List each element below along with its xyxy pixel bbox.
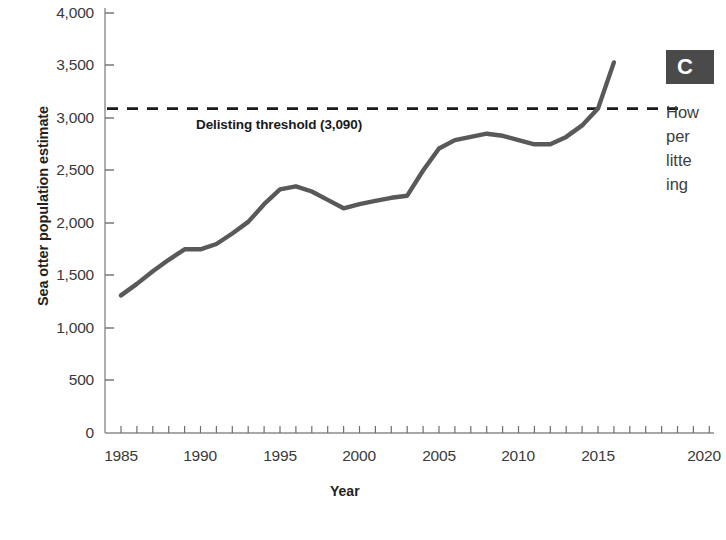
population-data-line (121, 62, 614, 295)
section-badge: C (666, 50, 714, 84)
delisting-threshold-label: Delisting threshold (3,090) (196, 117, 362, 132)
y-tick-label: 4,000 (8, 4, 94, 22)
y-tick-label: 0 (8, 424, 94, 442)
sidebar-text-line: per (666, 124, 714, 148)
x-tick-label: 2010 (483, 447, 553, 465)
sidebar-text-line: ing (666, 172, 714, 196)
x-axis-title: Year (330, 483, 360, 499)
x-tick-label: 1995 (245, 447, 315, 465)
y-tick-label: 500 (8, 371, 94, 389)
y-tick-label: 1,000 (8, 319, 94, 337)
x-tick-label: 1985 (86, 447, 156, 465)
y-tick-label: 2,000 (8, 214, 94, 232)
x-tick-label: 2000 (324, 447, 394, 465)
sidebar-panel: C How per litte ing (662, 0, 714, 540)
sidebar-text: How per litte ing (666, 100, 714, 196)
sidebar-text-line: litte (666, 148, 714, 172)
y-tick-label: 3,000 (8, 109, 94, 127)
sidebar-text-line: How (666, 100, 714, 124)
y-tick-label: 1,500 (8, 266, 94, 284)
y-tick-label: 3,500 (8, 56, 94, 74)
y-axis-ticks (105, 13, 114, 380)
x-tick-label: 2005 (404, 447, 474, 465)
y-tick-label: 2,500 (8, 161, 94, 179)
y-axis-title: Sea otter population estimate (35, 71, 51, 341)
x-tick-label: 2015 (563, 447, 633, 465)
x-tick-label: 1990 (165, 447, 235, 465)
x-axis-minor-ticks (121, 426, 709, 433)
